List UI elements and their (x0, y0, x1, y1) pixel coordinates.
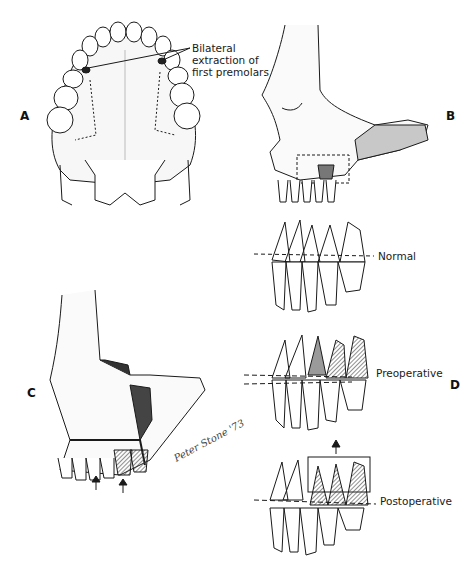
panel-a-maxilla-occlusal (47, 22, 200, 205)
label-preoperative: Preoperative (376, 367, 443, 379)
callout-line-2: extraction of (192, 54, 269, 66)
panel-d-postoperative-dentition (254, 440, 376, 555)
panel-d-normal-dentition (254, 220, 374, 312)
panel-c-skull-oblique (50, 290, 205, 493)
illustration-canvas (0, 0, 472, 567)
panel-label-b: B (446, 109, 455, 123)
label-postoperative: Postoperative (380, 495, 452, 507)
panel-label-d: D (450, 378, 460, 392)
upward-arrow-icons (92, 476, 127, 493)
label-normal: Normal (378, 250, 416, 262)
panel-label-c: C (27, 386, 36, 400)
panel-a-callout-text: Bilateral extraction of first premolars (192, 42, 269, 78)
panel-b-maxilla-lateral (262, 25, 428, 202)
callout-line-3: first premolars (192, 66, 269, 78)
callout-line-1: Bilateral (192, 42, 269, 54)
panel-d-preoperative-dentition (244, 335, 368, 430)
panel-label-a: A (20, 109, 29, 123)
